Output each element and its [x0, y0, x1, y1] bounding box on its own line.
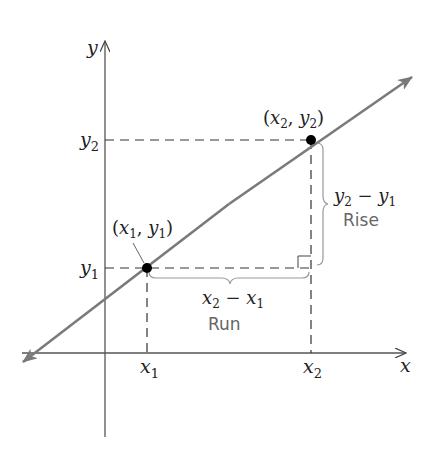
x2-base: x	[303, 355, 314, 377]
x1-base: x	[140, 355, 151, 377]
y1-base: y	[79, 256, 91, 278]
y-axis-label: y	[86, 36, 98, 58]
p2-a: x	[270, 107, 280, 128]
p2-open: (	[263, 107, 270, 128]
p1-open: (	[112, 217, 119, 238]
p1-leader	[133, 243, 144, 263]
run-brace	[149, 272, 309, 284]
slope-diagram: y x y2 y1 x1 x2 (x1, y1) (x2, y2) x2 − x…	[0, 0, 438, 458]
p1-sub-b: 1	[158, 227, 166, 241]
x2-sub: 2	[314, 366, 322, 381]
right-angle-marker	[298, 256, 311, 268]
x-axis-label: x	[400, 354, 411, 376]
run-sub-a: 2	[212, 297, 220, 311]
point-2-label: (x2, y2)	[263, 107, 324, 131]
p2-close: )	[317, 107, 324, 128]
run-sub-b: 1	[256, 297, 264, 311]
point-1-label: (x1, y1)	[112, 217, 173, 241]
y2-base: y	[79, 128, 91, 150]
point-1	[142, 263, 152, 273]
rise-sub-b: 1	[389, 195, 397, 209]
run-label: Run	[208, 314, 241, 334]
p2-sep: ,	[288, 107, 299, 128]
y2-sub: 2	[91, 139, 99, 154]
x2-tick-label: x2	[303, 355, 322, 381]
rise-sub-a: 2	[344, 195, 352, 209]
p1-sep: ,	[137, 217, 148, 238]
axes	[22, 41, 406, 437]
x1-tick-label: x1	[140, 355, 159, 381]
rise-expression: y2 − y1	[333, 185, 396, 209]
point-2	[306, 135, 316, 145]
run-expression: x2 − x1	[202, 287, 264, 311]
x1-sub: 1	[151, 366, 159, 381]
run-a: x	[202, 287, 212, 308]
run-b: x	[246, 287, 256, 308]
p1-sub-a: 1	[129, 227, 137, 241]
y2-tick-label: y2	[79, 128, 99, 154]
p1-close: )	[166, 217, 173, 238]
y1-tick-label: y1	[79, 256, 99, 282]
p2-sub-b: 2	[309, 117, 317, 131]
rise-minus: −	[352, 185, 379, 206]
y1-sub: 1	[91, 267, 99, 282]
p1-a: x	[119, 217, 129, 238]
p2-sub-a: 2	[280, 117, 288, 131]
rise-label: Rise	[343, 210, 379, 230]
rise-brace	[317, 143, 328, 265]
run-minus: −	[220, 287, 247, 308]
